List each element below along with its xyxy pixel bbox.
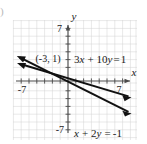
eq1-constant: 1 — [121, 53, 127, 65]
intersection-point-label: (-3, 1) — [36, 53, 61, 65]
y-axis-label: y — [71, 10, 77, 22]
x-tick-label-7: 7 — [117, 84, 122, 95]
y-tick-label-minus-7: -7 — [56, 124, 64, 135]
eq2-variable-y: y — [96, 127, 102, 139]
y-tick-label-7: 7 — [57, 23, 62, 34]
coordinate-plane-figure: x y -7 7 7 -7 (-3, 1) 3x+10y=1 x+2y=-1 — [0, 0, 147, 144]
x-axis-label: x — [131, 66, 137, 78]
svg-text:3x+10y=1: 3x+10y=1 — [74, 53, 126, 65]
eq1-coefficient-b: 10 — [97, 53, 109, 65]
eq2-equals-sign: = — [105, 127, 111, 139]
eq2-plus-sign: + — [82, 127, 88, 139]
x-tick-label-minus-7: -7 — [18, 84, 26, 95]
eq2-variable-x: x — [73, 127, 79, 139]
eq1-equals-sign: = — [114, 53, 120, 65]
eq2-constant: -1 — [113, 127, 122, 139]
eq1-variable-y: y — [107, 53, 113, 65]
eq1-plus-sign: + — [87, 53, 93, 65]
equation-label-line1: 3x+10y=1 — [74, 53, 126, 65]
eq1-variable-x: x — [79, 53, 85, 65]
